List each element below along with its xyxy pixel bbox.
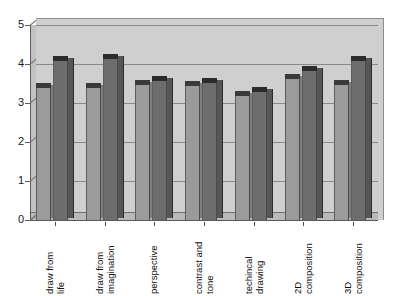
bar-front-face: [285, 79, 300, 221]
bars-layer: [30, 25, 378, 221]
bar-front-face: [152, 81, 167, 221]
bar: [103, 54, 118, 221]
bar: [252, 87, 267, 221]
bar-group: [30, 25, 80, 221]
x-axis-tick: [303, 222, 304, 226]
x-axis-category: contrast andtone: [179, 222, 229, 296]
bar-group: [179, 25, 229, 221]
y-axis-tick-label: 3: [4, 97, 24, 108]
x-axis-line: [30, 220, 378, 221]
bar-front-face: [86, 88, 101, 221]
bar-group: [328, 25, 378, 221]
y-axis-tick-label: 5: [4, 19, 24, 30]
x-axis-tick: [105, 222, 106, 226]
x-axis-label-line: drawing: [254, 228, 265, 294]
bar: [53, 56, 68, 221]
y-axis-labels: 012345: [0, 0, 24, 296]
bar: [185, 81, 200, 221]
bar-front-face: [36, 88, 51, 221]
y-axis-tick-label: 4: [4, 58, 24, 69]
bar-top-face: [351, 56, 366, 61]
x-axis-tick: [254, 222, 255, 226]
bar-front-face: [103, 59, 118, 221]
bar-side-face: [366, 58, 372, 218]
x-axis-category: draw fromlife: [30, 222, 80, 296]
x-axis-label-line: composition: [353, 228, 364, 294]
x-axis-label-line: composition: [303, 228, 314, 294]
x-axis-label-line: draw from: [44, 228, 55, 294]
bar-top-face: [302, 66, 317, 71]
x-axis-category: techincaldrawing: [229, 222, 279, 296]
bar-top-face: [202, 78, 217, 83]
bar-side-face: [68, 58, 74, 218]
bar-top-face: [185, 81, 200, 86]
bar-front-face: [135, 85, 150, 222]
bar-front-face: [351, 61, 366, 221]
bar-front-face: [202, 83, 217, 221]
bar: [135, 80, 150, 222]
bar: [86, 83, 101, 221]
bar-top-face: [135, 80, 150, 85]
x-axis-label-line: techincal: [243, 228, 254, 294]
x-axis-category: 2Dcomposition: [279, 222, 329, 296]
x-axis-category-label: perspective: [149, 228, 160, 294]
bar-side-face: [267, 89, 273, 218]
x-axis-category-label: techincaldrawing: [243, 228, 264, 294]
y-axis-tick-label: 1: [4, 175, 24, 186]
bar-group: [80, 25, 130, 221]
bar-side-face: [217, 80, 223, 218]
bar: [334, 80, 349, 222]
bar-side-face: [167, 78, 173, 218]
bar-group: [129, 25, 179, 221]
bar-front-face: [235, 96, 250, 221]
bar-top-face: [334, 80, 349, 85]
bar-top-face: [152, 76, 167, 81]
bar: [302, 66, 317, 221]
bar: [202, 78, 217, 221]
bar-side-face: [317, 68, 323, 218]
x-axis-category-label: draw fromimagination: [94, 228, 115, 294]
bar-front-face: [53, 61, 68, 221]
x-axis-category-label: contrast andtone: [193, 228, 214, 294]
bar-top-face: [235, 91, 250, 96]
y-axis-tick-label: 0: [4, 214, 24, 225]
bar-group: [279, 25, 329, 221]
bar: [235, 91, 250, 221]
bar: [152, 76, 167, 221]
bar-front-face: [185, 86, 200, 221]
bar-front-face: [302, 71, 317, 221]
y-axis-line: [30, 25, 31, 220]
bar-group: [229, 25, 279, 221]
x-axis-label-line: life: [55, 228, 66, 294]
x-axis-category-label: 2Dcomposition: [293, 228, 314, 294]
bar-top-face: [53, 56, 68, 61]
bar-top-face: [36, 83, 51, 88]
x-axis-category: perspective: [129, 222, 179, 296]
x-axis-category-label: draw fromlife: [44, 228, 65, 294]
x-axis-tick: [353, 222, 354, 226]
bar: [285, 74, 300, 221]
bar-side-face: [118, 56, 124, 218]
bar-front-face: [334, 85, 349, 222]
bar-top-face: [252, 87, 267, 92]
x-axis-tick: [154, 222, 155, 226]
x-axis-label-line: tone: [204, 228, 215, 294]
bar-top-face: [285, 74, 300, 79]
x-axis-tick: [204, 222, 205, 226]
bar: [351, 56, 366, 221]
y-axis-tick-label: 2: [4, 136, 24, 147]
bar: [36, 83, 51, 221]
x-axis-label-line: draw from: [94, 228, 105, 294]
x-axis-tick: [55, 222, 56, 226]
x-axis-category: 3Dcomposition: [328, 222, 378, 296]
x-axis-label-line: imagination: [105, 228, 116, 294]
bar-top-face: [103, 54, 118, 59]
bar-chart: 012345 draw fromlifedraw fromimagination…: [0, 0, 393, 296]
x-axis-category-label: 3Dcomposition: [343, 228, 364, 294]
x-axis-label-line: perspective: [149, 228, 160, 294]
x-axis-label-line: contrast and: [193, 228, 204, 294]
bar-front-face: [252, 92, 267, 221]
x-axis-category: draw fromimagination: [80, 222, 130, 296]
bar-top-face: [86, 83, 101, 88]
x-axis-labels: draw fromlifedraw fromimaginationperspec…: [30, 222, 378, 296]
